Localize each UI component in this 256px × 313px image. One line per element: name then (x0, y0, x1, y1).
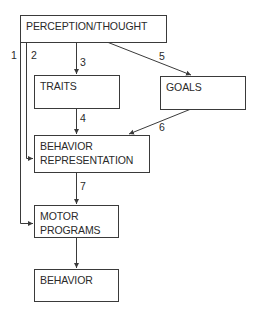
node-behavior: BEHAVIOR (34, 269, 119, 302)
edge-label-5: 5 (159, 50, 165, 62)
edge-label-7: 7 (80, 180, 86, 192)
node-label-line-1: MOTOR (40, 209, 118, 223)
edge-5-arrow (107, 42, 191, 75)
node-label-line-1: BEHAVIOR (40, 139, 149, 153)
edge-label-1: 1 (11, 49, 17, 61)
edge-label-3: 3 (80, 56, 86, 68)
edge-label-6: 6 (159, 121, 165, 133)
edge-label-2: 2 (31, 49, 37, 61)
node-label: GOALS (166, 80, 245, 94)
flow-diagram: PERCEPTION/THOUGHT TRAITS GOALS BEHAVIOR… (0, 0, 256, 313)
edge-label-4: 4 (80, 112, 86, 124)
node-motor-programs: MOTOR PROGRAMS (34, 205, 119, 238)
node-label: TRAITS (40, 79, 119, 93)
node-label-line-2: PROGRAMS (40, 223, 118, 237)
node-traits: TRAITS (34, 75, 120, 109)
node-label-line-2: REPRESENTATION (40, 153, 149, 167)
node-goals: GOALS (160, 76, 246, 110)
node-perception-thought: PERCEPTION/THOUGHT (20, 15, 167, 43)
node-label: BEHAVIOR (40, 273, 118, 287)
node-behavior-representation: BEHAVIOR REPRESENTATION (34, 135, 150, 173)
node-label: PERCEPTION/THOUGHT (26, 19, 166, 33)
